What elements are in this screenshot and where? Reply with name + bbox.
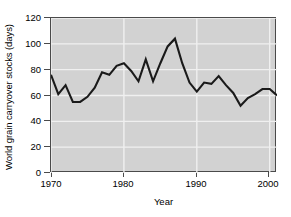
- plot-area: [50, 17, 276, 172]
- chart-canvas: [51, 18, 277, 173]
- x-tick-label-1970: 1970: [34, 178, 68, 189]
- y-axis-title: World grain carryover stocks (days): [2, 9, 16, 185]
- x-axis-title: Year: [50, 196, 277, 207]
- chart-figure: World grain carryover stocks (days) 120 …: [0, 0, 291, 217]
- y-tick-mark-0: [44, 172, 50, 173]
- x-tick-label-1990: 1990: [179, 178, 213, 189]
- x-tick-label-2000: 2000: [251, 178, 285, 189]
- x-tick-label-1980: 1980: [106, 178, 140, 189]
- gridlines: [51, 18, 277, 173]
